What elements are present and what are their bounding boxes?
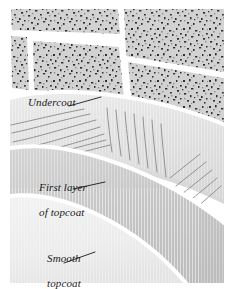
masonry-block (11, 9, 25, 30)
paint-layers-figure: Undercoat First layer of topcoat Smooth … (0, 0, 233, 289)
masonry-block (11, 9, 120, 34)
masonry-block (33, 41, 124, 98)
label-smooth-line1: Smooth (47, 252, 81, 264)
label-smooth-line2: topcoat (47, 277, 81, 289)
masonry-block (11, 36, 29, 90)
label-first-layer-line1: First layer (39, 181, 87, 193)
label-undercoat: Undercoat (28, 96, 76, 109)
label-first-layer-line2: of topcoat (39, 206, 84, 218)
